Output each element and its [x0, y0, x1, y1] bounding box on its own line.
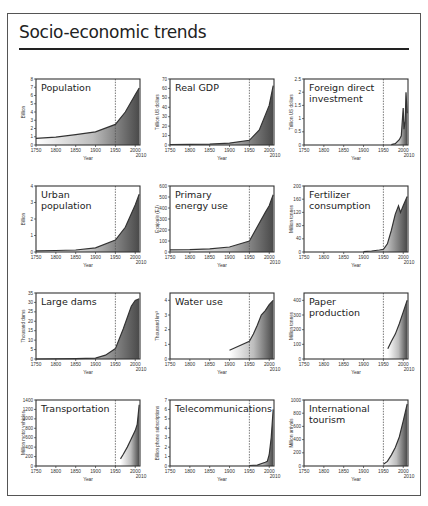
- y-tick-label: 20: [162, 124, 168, 129]
- y-tick-label: 0: [298, 464, 301, 469]
- x-tick-label: 1750: [299, 255, 310, 260]
- x-tick-label: 1850: [204, 255, 215, 260]
- y-tick-label: 5: [30, 347, 33, 352]
- chart-telecommunications: 012345671750180018501900195020002010Year…: [156, 397, 291, 505]
- y-tick-label: 100: [293, 342, 301, 347]
- y-tick-label: 400: [25, 445, 33, 450]
- y-tick-label: 6: [30, 93, 33, 98]
- chart-urban-population: 012341750180018501900195020002010YearBil…: [22, 183, 157, 291]
- y-axis-label: Trillion US dollars: [289, 93, 294, 130]
- y-axis-label: Million tonnes: [289, 204, 294, 233]
- y-tick-label: 1400: [23, 398, 34, 403]
- chart-primary-energy-use: 0100200300400500600175018001850190019502…: [156, 183, 291, 291]
- x-tick-label: 1800: [185, 255, 196, 260]
- chart-water-use: 012341750180018501900195020002010YearTho…: [156, 290, 291, 398]
- y-tick-label: 1: [164, 454, 167, 459]
- y-tick-label: 0: [30, 250, 33, 255]
- x-tick-label: 1850: [338, 469, 349, 474]
- title-divider: [19, 48, 409, 50]
- x-tick-label: 1750: [31, 255, 42, 260]
- y-tick-label: 160: [293, 197, 301, 202]
- chart-title: International tourism: [309, 404, 370, 425]
- x-axis-label: Year: [351, 477, 361, 482]
- x-tick-label: 1750: [31, 148, 42, 153]
- x-axis-label: Year: [217, 477, 227, 482]
- y-tick-label: 50: [162, 95, 168, 100]
- x-tick-label: 1900: [224, 148, 235, 153]
- chart-transportation: 0200400600800100012001400175018001850190…: [22, 397, 157, 505]
- y-tick-label: 200: [293, 327, 301, 332]
- y-tick-label: 300: [159, 217, 167, 222]
- y-tick-label: 2: [164, 327, 167, 332]
- x-tick-label: 1900: [90, 362, 101, 367]
- x-end-label: 2010: [404, 153, 415, 158]
- y-tick-label: 120: [293, 210, 301, 215]
- x-end-label: 2010: [136, 367, 147, 372]
- y-tick-label: 0: [298, 250, 301, 255]
- y-tick-label: 25: [28, 309, 34, 314]
- y-tick-label: 0: [164, 250, 167, 255]
- x-tick-label: 1750: [299, 148, 310, 153]
- x-axis-label: Year: [351, 370, 361, 375]
- x-axis-label: Year: [83, 263, 93, 268]
- y-tick-label: 3: [30, 118, 33, 123]
- chart-paper-production: 0100200300400175018001850190019502000201…: [290, 290, 425, 398]
- y-tick-label: 1000: [291, 398, 302, 403]
- y-tick-label: 200: [25, 454, 33, 459]
- page-title: Socio-economic trends: [19, 22, 206, 42]
- chart-international-tourism: 0200400600800100017501800185019001950200…: [290, 397, 425, 505]
- x-tick-label: 1850: [70, 255, 81, 260]
- x-tick-label: 1950: [244, 362, 255, 367]
- x-tick-label: 1950: [378, 469, 389, 474]
- x-tick-label: 1750: [299, 362, 310, 367]
- chart-title: Fertilizer consumption: [309, 190, 371, 211]
- x-tick-label: 1950: [110, 362, 121, 367]
- y-tick-label: 200: [159, 228, 167, 233]
- y-tick-label: 1.5: [295, 103, 302, 108]
- y-tick-label: 200: [293, 184, 301, 189]
- x-end-label: 2010: [270, 153, 281, 158]
- x-tick-label: 1900: [90, 255, 101, 260]
- x-end-label: 2010: [404, 474, 415, 479]
- x-tick-label: 1950: [110, 255, 121, 260]
- area-series: [170, 86, 273, 145]
- x-axis-label: Year: [351, 156, 361, 161]
- chart-title: Urban population: [41, 190, 92, 211]
- y-tick-label: 80: [296, 223, 302, 228]
- chart-real-gdp: 0102030405060701750180018501900195020002…: [156, 76, 291, 184]
- y-tick-label: 70: [162, 77, 168, 82]
- y-tick-label: 2: [30, 126, 33, 131]
- x-tick-label: 1900: [90, 148, 101, 153]
- y-tick-label: 3: [164, 313, 167, 318]
- x-axis-label: Year: [83, 477, 93, 482]
- y-axis-label: Billion: [21, 212, 26, 225]
- x-axis-label: Year: [217, 370, 227, 375]
- x-axis-label: Year: [351, 263, 361, 268]
- x-tick-label: 1900: [224, 255, 235, 260]
- y-tick-label: 800: [25, 426, 33, 431]
- y-tick-label: 4: [30, 184, 33, 189]
- y-tick-label: 0: [164, 357, 167, 362]
- x-end-label: 2010: [136, 474, 147, 479]
- x-tick-label: 1850: [338, 362, 349, 367]
- x-tick-label: 1850: [204, 148, 215, 153]
- x-tick-label: 1850: [204, 362, 215, 367]
- y-tick-label: 7: [164, 398, 167, 403]
- x-tick-label: 1800: [51, 362, 62, 367]
- x-end-label: 2010: [136, 153, 147, 158]
- y-tick-label: 40: [162, 105, 168, 110]
- y-tick-label: 0: [298, 357, 301, 362]
- y-tick-label: 0.5: [295, 129, 302, 134]
- y-tick-label: 30: [162, 114, 168, 119]
- chart-foreign-direct-investment: 00.511.522.51750180018501900195020002010…: [290, 76, 425, 184]
- y-axis-label: Thousand dams: [21, 309, 26, 343]
- y-tick-label: 30: [28, 300, 34, 305]
- y-tick-label: 200: [293, 450, 301, 455]
- x-tick-label: 1800: [319, 255, 330, 260]
- y-tick-label: 40: [296, 236, 302, 241]
- y-tick-label: 600: [293, 424, 301, 429]
- x-tick-label: 1900: [358, 362, 369, 367]
- x-tick-label: 1850: [338, 255, 349, 260]
- x-tick-label: 1950: [378, 362, 389, 367]
- chart-title: Population: [41, 83, 91, 94]
